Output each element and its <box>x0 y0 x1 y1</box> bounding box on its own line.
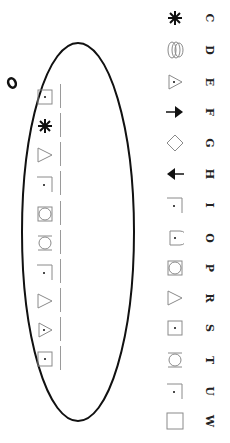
key-letter: O <box>202 231 216 245</box>
corner-dot-icon <box>36 175 54 193</box>
key-letter: R <box>202 291 216 305</box>
diamond-icon <box>166 134 184 152</box>
half-circle-dot-icon <box>166 229 184 247</box>
square-dot-icon <box>36 88 54 106</box>
bracket-circle-icon <box>166 351 184 369</box>
answer-line <box>60 230 61 254</box>
key-letter: T <box>202 353 216 367</box>
selection-ellipse <box>0 0 230 443</box>
answer-line <box>60 142 61 166</box>
square-dot-icon <box>166 319 184 337</box>
key-letter: S <box>202 321 216 335</box>
triangle-dot-icon <box>166 73 184 91</box>
key-letter: H <box>202 167 216 181</box>
key-letter: C <box>202 11 216 25</box>
triangle-icon <box>36 292 54 310</box>
star-icon <box>166 9 184 27</box>
answer-line <box>60 201 61 225</box>
arrow-left-icon <box>166 165 184 183</box>
key-letter: F <box>202 105 216 119</box>
overlapping-ellipses-icon <box>166 41 184 59</box>
key-letter: U <box>202 384 216 398</box>
answer-line <box>60 317 61 341</box>
key-letter: W <box>202 414 216 428</box>
triangle-icon <box>36 146 54 164</box>
star-icon <box>36 117 54 135</box>
key-letter: I <box>202 198 216 212</box>
corner-dot-icon <box>166 382 184 400</box>
triangle-icon <box>166 289 184 307</box>
key-letter: P <box>202 261 216 275</box>
answer-line <box>60 288 61 312</box>
square-circle-icon <box>166 259 184 277</box>
corner-dot-icon <box>36 263 54 281</box>
answer-line <box>60 171 61 195</box>
square-circle-icon <box>36 205 54 223</box>
bracket-circle-icon <box>36 234 54 252</box>
key-letter: D <box>202 43 216 57</box>
answer-line <box>60 259 61 283</box>
answer-line <box>60 113 61 137</box>
square-dot-icon <box>36 350 54 368</box>
arrow-right-icon <box>166 103 184 121</box>
answer-line <box>60 84 61 108</box>
key-letter: G <box>202 136 216 150</box>
answer-line <box>60 346 61 370</box>
corner-dot-icon <box>166 196 184 214</box>
square-icon <box>166 412 184 430</box>
triangle-dot-icon <box>36 321 54 339</box>
key-letter: E <box>202 75 216 89</box>
